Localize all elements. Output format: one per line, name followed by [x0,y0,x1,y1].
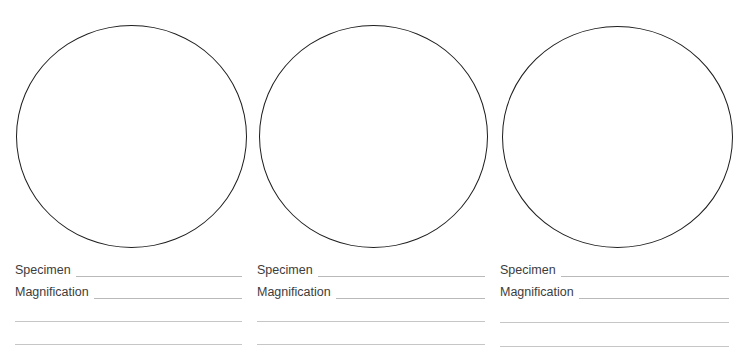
panel-3-fields: Specimen Magnification [500,258,729,358]
magnification-field-3[interactable]: Magnification [500,280,729,300]
notes-line-1[interactable] [15,321,242,322]
magnification-label: Magnification [257,285,336,300]
specimen-field-3[interactable]: Specimen [500,258,729,278]
notes-line-2[interactable] [15,344,242,345]
magnification-field-1[interactable]: Magnification [15,280,242,300]
specimen-label: Specimen [500,263,561,278]
panel-1-fields: Specimen Magnification [15,258,242,358]
magnification-input-line[interactable] [94,298,242,299]
panel-2-fields: Specimen Magnification [257,258,485,358]
specimen-label: Specimen [257,263,318,278]
microscope-view-circle-3 [502,26,733,248]
magnification-field-2[interactable]: Magnification [257,280,485,300]
magnification-input-line[interactable] [336,298,485,299]
specimen-field-2[interactable]: Specimen [257,258,485,278]
specimen-field-1[interactable]: Specimen [15,258,242,278]
specimen-input-line[interactable] [76,276,242,277]
magnification-input-line[interactable] [579,298,729,299]
specimen-label: Specimen [15,263,76,278]
specimen-input-line[interactable] [561,276,729,277]
microscope-view-circle-1 [16,25,247,248]
specimen-input-line[interactable] [318,276,485,277]
notes-line-2[interactable] [500,346,729,347]
magnification-label: Magnification [15,285,94,300]
notes-line-2[interactable] [257,344,485,345]
notes-line-1[interactable] [257,321,485,322]
notes-line-1[interactable] [500,322,729,323]
magnification-label: Magnification [500,285,579,300]
microscope-view-circle-2 [259,25,488,248]
